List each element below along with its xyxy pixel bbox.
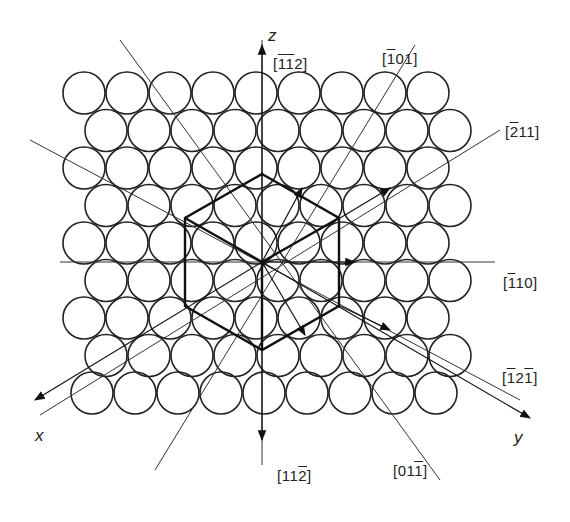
atom-circle bbox=[63, 297, 105, 339]
atom-circle bbox=[278, 147, 320, 189]
atom-circle bbox=[300, 335, 342, 377]
atom-circle bbox=[171, 335, 213, 377]
direction-label-m110: [110] bbox=[503, 274, 538, 291]
atom-circle bbox=[429, 185, 471, 227]
atom-circle bbox=[128, 260, 170, 302]
atom-circle bbox=[128, 185, 170, 227]
atom-circle bbox=[114, 372, 156, 414]
atom-circle bbox=[106, 72, 148, 114]
atom-circle bbox=[257, 110, 299, 152]
atom-circle bbox=[85, 335, 127, 377]
atom-circle bbox=[149, 72, 191, 114]
atom-circle bbox=[386, 185, 428, 227]
atom-circle bbox=[364, 72, 406, 114]
atom-circle bbox=[321, 297, 363, 339]
direction-label-01m1: [011] bbox=[393, 462, 428, 479]
atom-circle bbox=[235, 72, 277, 114]
atom-circle bbox=[235, 147, 277, 189]
atom-circle bbox=[85, 185, 127, 227]
atom-circle bbox=[407, 297, 449, 339]
atom-circle bbox=[63, 72, 105, 114]
atom-circle bbox=[343, 110, 385, 152]
direction-label-m101: [101] bbox=[382, 50, 418, 67]
atom-circle bbox=[243, 372, 285, 414]
atom-circle bbox=[214, 110, 256, 152]
atom-circle bbox=[63, 147, 105, 189]
atom-circle bbox=[171, 110, 213, 152]
direction-label-m1m12: [112] bbox=[273, 55, 308, 72]
atom-circle bbox=[407, 222, 449, 264]
atom-circle bbox=[407, 72, 449, 114]
atom-circle bbox=[286, 372, 328, 414]
lattice-svg bbox=[0, 0, 570, 522]
atom-circle bbox=[235, 297, 277, 339]
atom-circle bbox=[149, 147, 191, 189]
atom-circle bbox=[386, 260, 428, 302]
direction-label-m12m1: [121] bbox=[502, 369, 538, 386]
atom-circle bbox=[85, 260, 127, 302]
atom-circle bbox=[106, 297, 148, 339]
atom-circle bbox=[429, 110, 471, 152]
atom-circle bbox=[278, 297, 320, 339]
atom-circle bbox=[429, 260, 471, 302]
atom-circle bbox=[106, 222, 148, 264]
direction-label-11m2: [112] bbox=[277, 467, 312, 484]
atom-circle bbox=[192, 72, 234, 114]
atom-circle bbox=[329, 372, 371, 414]
close-packed-plane-diagram: z x y [112] [101] [211] [110] [121] [011… bbox=[0, 0, 570, 522]
atom-circle bbox=[128, 335, 170, 377]
atom-circle bbox=[200, 372, 242, 414]
atom-circle bbox=[364, 222, 406, 264]
atom-circle bbox=[85, 110, 127, 152]
axis-x-label: x bbox=[35, 426, 44, 446]
atom-circle bbox=[415, 372, 457, 414]
atom-circle bbox=[300, 260, 342, 302]
atom-circle bbox=[192, 297, 234, 339]
atom-circle bbox=[63, 222, 105, 264]
atom-circle bbox=[321, 72, 363, 114]
atom-circle bbox=[364, 147, 406, 189]
atom-circle bbox=[106, 147, 148, 189]
atom-circle bbox=[386, 110, 428, 152]
atom-circle bbox=[214, 335, 256, 377]
atom-circle bbox=[407, 147, 449, 189]
atom-circle bbox=[364, 297, 406, 339]
atom-circle bbox=[278, 72, 320, 114]
axis-y-label: y bbox=[514, 428, 523, 448]
atom-circle bbox=[71, 372, 113, 414]
atom-circle bbox=[343, 260, 385, 302]
atom-circle bbox=[321, 147, 363, 189]
atom-circle bbox=[372, 372, 414, 414]
direction-label-m211: [211] bbox=[505, 123, 540, 140]
atom-circle bbox=[128, 110, 170, 152]
atom-circle bbox=[214, 260, 256, 302]
axis-z-label: z bbox=[268, 26, 277, 46]
atom-circle bbox=[300, 110, 342, 152]
